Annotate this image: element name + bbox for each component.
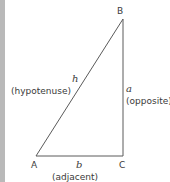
opposite-symbol: a: [126, 83, 132, 94]
right-triangle-diagram: B A C h (hypotenuse) a (opposite) b (adj…: [0, 0, 170, 182]
hypotenuse-symbol: h: [72, 73, 78, 84]
vertex-label-a: A: [31, 160, 38, 170]
vertex-label-c: C: [119, 160, 125, 170]
adjacent-label: (adjacent): [52, 172, 98, 182]
hypotenuse-label: (hypotenuse): [11, 86, 71, 96]
opposite-label: (opposite): [126, 96, 170, 106]
vertex-label-b: B: [117, 6, 123, 16]
adjacent-symbol: b: [76, 159, 82, 170]
